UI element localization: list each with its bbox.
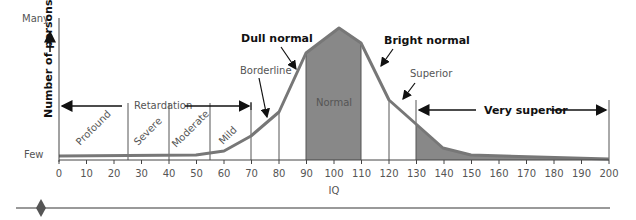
- y-axis-label: Number of persons: [42, 0, 55, 118]
- svg-text:60: 60: [218, 168, 231, 179]
- label-superior: Superior: [410, 68, 453, 79]
- label-borderline: Borderline: [240, 65, 292, 76]
- superior-arrow: [403, 83, 415, 99]
- label-profound: Profound: [74, 108, 113, 147]
- svg-text:90: 90: [300, 168, 313, 179]
- svg-text:0: 0: [56, 168, 62, 179]
- iq-distribution-chart: 0 10 20 30 40 50 60 70 80 90 100 110 120…: [0, 0, 636, 220]
- x-tick-labels: 0 10 20 30 40 50 60 70 80 90 100 110 120…: [56, 168, 619, 179]
- svg-text:70: 70: [245, 168, 258, 179]
- svg-text:150: 150: [462, 168, 481, 179]
- svg-text:30: 30: [135, 168, 148, 179]
- diamond-marker-icon: [36, 199, 46, 217]
- x-axis-label: IQ: [329, 185, 340, 196]
- svg-text:140: 140: [434, 168, 453, 179]
- svg-text:200: 200: [599, 168, 618, 179]
- label-dull-normal: Dull normal: [241, 32, 313, 45]
- label-normal: Normal: [316, 97, 352, 108]
- svg-text:100: 100: [324, 168, 343, 179]
- svg-text:10: 10: [80, 168, 93, 179]
- svg-text:110: 110: [352, 168, 371, 179]
- very-superior-tail: [416, 124, 609, 160]
- svg-text:170: 170: [517, 168, 536, 179]
- label-moderate: Moderate: [170, 108, 211, 149]
- label-bright-normal: Bright normal: [384, 34, 470, 47]
- svg-text:40: 40: [163, 168, 176, 179]
- svg-text:190: 190: [572, 168, 591, 179]
- svg-text:120: 120: [379, 168, 398, 179]
- borderline-arrow: [259, 78, 267, 117]
- svg-text:130: 130: [407, 168, 426, 179]
- retardation-label: Retardation: [134, 100, 192, 111]
- svg-text:50: 50: [190, 168, 203, 179]
- x-ticks: [59, 160, 609, 164]
- svg-text:180: 180: [544, 168, 563, 179]
- label-severe: Severe: [132, 115, 164, 147]
- bright-normal-arrow: [381, 49, 393, 66]
- svg-text:20: 20: [108, 168, 121, 179]
- y-label-few: Few: [24, 149, 44, 160]
- svg-text:160: 160: [489, 168, 508, 179]
- svg-text:80: 80: [273, 168, 286, 179]
